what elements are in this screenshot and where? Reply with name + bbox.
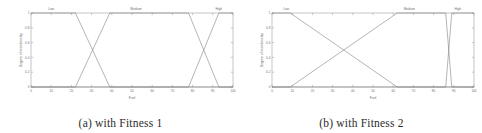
x-tick-label: 100 — [230, 89, 235, 93]
x-tick-label: 40 — [110, 89, 114, 93]
mf-label-medium: Medium — [404, 7, 416, 11]
x-tick-label: 80 — [432, 89, 436, 93]
plot-frame — [31, 13, 233, 87]
mf-label-low: Low — [283, 7, 290, 11]
y-tick-label: 0.6 — [25, 41, 30, 45]
x-tick-label: 10 — [290, 89, 294, 93]
membership-plot-b: 010203040506070809010000.20.40.60.81Fuel… — [241, 0, 482, 103]
y-tick-label: 0.6 — [266, 41, 271, 45]
y-tick-label: 1 — [28, 11, 30, 15]
y-tick-label: 0 — [269, 85, 271, 89]
x-axis-title: Fuel — [370, 96, 377, 100]
y-tick-label: 0.2 — [25, 70, 30, 74]
x-tick-label: 40 — [351, 89, 355, 93]
mf-label-high: High — [216, 7, 223, 11]
x-tick-label: 80 — [191, 89, 195, 93]
membership-curve-high — [272, 13, 474, 87]
membership-curve-medium — [31, 13, 233, 87]
x-tick-label: 60 — [150, 89, 154, 93]
mf-label-medium: Medium — [130, 7, 142, 11]
y-tick-label: 0.8 — [266, 26, 271, 30]
panel-caption-a: (a) with Fitness 1 — [0, 117, 241, 129]
membership-curve-low — [272, 13, 474, 87]
x-tick-label: 50 — [130, 89, 134, 93]
x-tick-label: 100 — [471, 89, 476, 93]
plot-area-b: 010203040506070809010000.20.40.60.81Fuel… — [241, 0, 482, 103]
membership-curve-low — [31, 13, 233, 87]
figure-container: 010203040506070809010000.20.40.60.81Fuel… — [0, 0, 482, 133]
mf-label-low: Low — [48, 7, 55, 11]
x-tick-label: 70 — [171, 89, 175, 93]
x-tick-label: 90 — [211, 89, 215, 93]
membership-plot-a: 010203040506070809010000.20.40.60.81Fuel… — [0, 0, 241, 103]
x-tick-label: 30 — [90, 89, 94, 93]
x-tick-label: 60 — [391, 89, 395, 93]
x-tick-label: 70 — [412, 89, 416, 93]
x-tick-label: 10 — [49, 89, 53, 93]
plot-frame — [272, 13, 474, 87]
x-tick-label: 0 — [30, 89, 32, 93]
x-tick-label: 20 — [311, 89, 315, 93]
membership-curve-high — [31, 13, 233, 87]
membership-curve-medium — [272, 13, 474, 87]
figure-panel-a: 010203040506070809010000.20.40.60.81Fuel… — [0, 0, 241, 133]
y-tick-label: 0.8 — [25, 26, 30, 30]
x-tick-label: 20 — [70, 89, 74, 93]
y-tick-label: 0.4 — [266, 56, 271, 60]
x-tick-label: 30 — [331, 89, 335, 93]
y-tick-label: 0.2 — [266, 70, 271, 74]
x-tick-label: 0 — [271, 89, 273, 93]
x-tick-label: 90 — [452, 89, 456, 93]
y-tick-label: 0 — [28, 85, 30, 89]
mf-label-high: High — [455, 7, 462, 11]
figure-panel-b: 010203040506070809010000.20.40.60.81Fuel… — [241, 0, 482, 133]
y-axis-title: Degree of membership — [260, 33, 264, 68]
x-axis-title: Fuel — [129, 96, 136, 100]
y-axis-title: Degree of membership — [19, 33, 23, 68]
y-tick-label: 1 — [269, 11, 271, 15]
panel-caption-b: (b) with Fitness 2 — [241, 117, 482, 129]
plot-area-a: 010203040506070809010000.20.40.60.81Fuel… — [0, 0, 241, 103]
y-tick-label: 0.4 — [25, 56, 30, 60]
x-tick-label: 50 — [371, 89, 375, 93]
